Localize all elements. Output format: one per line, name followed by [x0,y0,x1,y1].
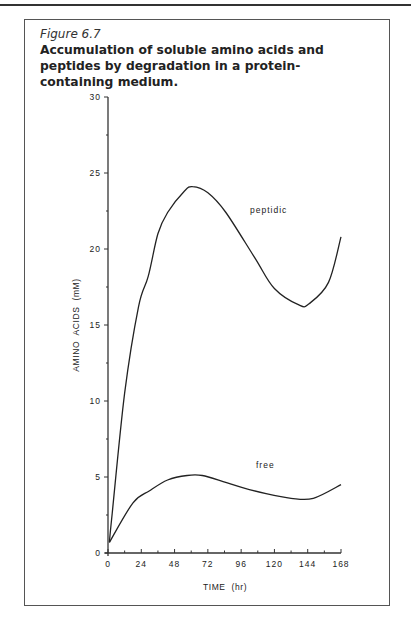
x-tick-label: 72 [202,559,213,569]
y-tick-label: 0 [95,548,101,558]
y-tick-label: 15 [90,320,101,330]
x-tick-label: 48 [169,559,180,569]
y-tick-label: 5 [95,472,101,482]
line-chart: 051015202530024487296120144168 peptidicf… [0,0,411,633]
y-axis-title: AMINO ACIDS (mM) [71,278,81,371]
series-label-peptidic: peptidic [250,205,287,215]
y-tick-label: 20 [90,244,101,254]
series-label-free: free [256,460,275,470]
chart-series: peptidicfree [109,187,341,543]
series-line-peptidic [109,187,341,543]
series-line-free [109,475,341,543]
x-tick-label: 96 [235,559,246,569]
y-tick-label: 10 [90,396,101,406]
x-tick-label: 120 [266,559,283,569]
x-axis-title: TIME (hr) [203,582,247,592]
y-tick-label: 30 [90,92,101,102]
y-tick-label: 25 [90,168,101,178]
chart-axes: 051015202530024487296120144168 [90,92,350,569]
x-tick-label: 0 [105,559,111,569]
x-tick-label: 144 [299,559,316,569]
x-tick-label: 168 [332,559,349,569]
x-tick-label: 24 [136,559,147,569]
